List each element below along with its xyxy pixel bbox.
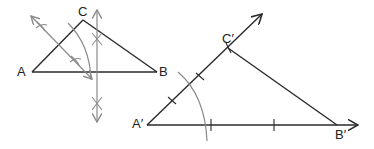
side-bc	[83, 20, 157, 72]
side-ac	[32, 20, 83, 72]
original-triangle	[32, 20, 157, 72]
side-b-prime-c-prime	[228, 48, 337, 125]
vertex-label-b: B	[159, 65, 168, 78]
vertex-label-a-prime: A′	[132, 117, 143, 130]
copied-construction	[168, 43, 274, 141]
original-construction	[31, 10, 102, 122]
vertex-label-b-prime: B′	[335, 128, 346, 141]
vertex-label-c: C	[78, 5, 87, 18]
construction-arc	[178, 72, 207, 141]
triangle-construction-diagram	[0, 0, 374, 149]
copied-triangle	[147, 14, 358, 125]
vertex-label-c-prime: C′	[222, 32, 234, 45]
vertex-label-a: A	[17, 65, 26, 78]
